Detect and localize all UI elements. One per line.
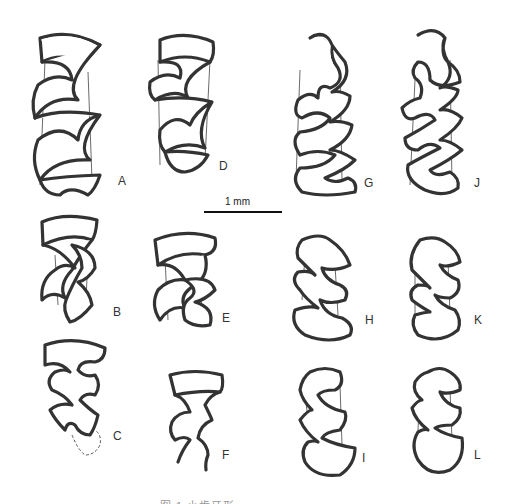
specimen-plate: A B C D E F G H I J K L 1 mm 图 1 小齿牙形 …… xyxy=(0,0,505,504)
specimen-drawing-L xyxy=(412,369,463,473)
specimen-label-H: H xyxy=(365,314,374,326)
scale-bar-label: 1 mm xyxy=(225,196,250,207)
specimen-label-C: C xyxy=(113,430,122,442)
specimen-drawing-A xyxy=(33,34,100,195)
specimen-drawing-F xyxy=(170,372,223,471)
specimen-drawing-I xyxy=(300,369,355,476)
specimen-label-I: I xyxy=(362,452,365,464)
specimen-label-J: J xyxy=(474,177,480,189)
specimen-drawing-J xyxy=(402,31,462,194)
specimen-label-D: D xyxy=(219,160,228,172)
specimen-label-L: L xyxy=(474,449,481,461)
specimen-drawing-C xyxy=(45,341,105,455)
specimen-drawings xyxy=(0,0,505,504)
specimen-drawing-D xyxy=(150,35,214,172)
specimen-label-G: G xyxy=(364,177,373,189)
specimen-label-A: A xyxy=(118,175,126,187)
specimen-drawing-K xyxy=(411,238,460,339)
specimen-drawing-G xyxy=(295,34,356,195)
specimen-drawing-B xyxy=(42,216,97,322)
specimen-label-E: E xyxy=(222,312,230,324)
figure-caption: 图 1 小齿牙形 …… xyxy=(160,497,263,504)
scale-bar xyxy=(204,211,282,213)
specimen-label-K: K xyxy=(474,314,482,326)
specimen-label-F: F xyxy=(222,449,229,461)
specimen-drawing-H xyxy=(294,236,352,340)
specimen-label-B: B xyxy=(113,306,121,318)
specimen-drawing-E xyxy=(154,233,215,325)
